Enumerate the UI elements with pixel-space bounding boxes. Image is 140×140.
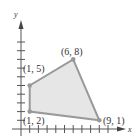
coordinate-plot: y x (1, 2) (1, 5) (6, 8) (9, 1) <box>0 0 140 140</box>
y-axis-arrow-icon <box>19 20 24 29</box>
vertex-label-9-1: (9, 1) <box>103 115 125 127</box>
x-axis-label: x <box>127 125 132 134</box>
vertex-label-6-8: (6, 8) <box>61 46 83 58</box>
y-axis-label: y <box>13 10 18 19</box>
plot-svg: y x (1, 2) (1, 5) (6, 8) (9, 1) <box>0 0 140 140</box>
x-axis-arrow-icon <box>117 127 126 132</box>
vertex-label-1-2: (1, 2) <box>23 115 45 127</box>
vertex-label-1-5: (1, 5) <box>23 63 45 75</box>
